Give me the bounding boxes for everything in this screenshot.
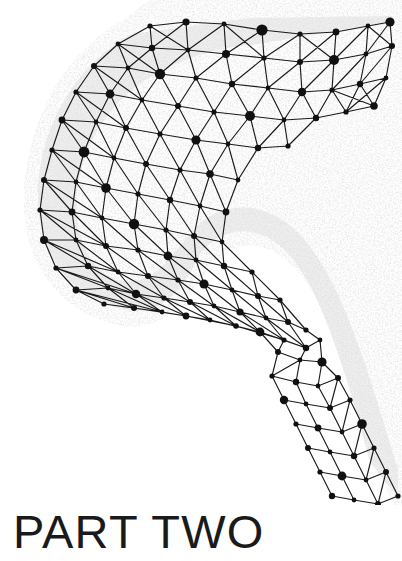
part-divider-page: PART TWO	[0, 0, 402, 561]
page-title: PART TWO	[13, 507, 265, 557]
network-mesh-illustration	[0, 0, 402, 505]
